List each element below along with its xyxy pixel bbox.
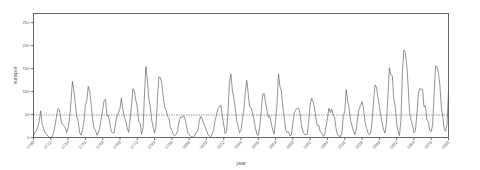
sunspot-line-chart: 050100150200250 170017121724173617481760… <box>0 0 480 170</box>
y-tick-label: 100 <box>23 89 31 94</box>
y-tick-label: 50 <box>25 112 30 117</box>
sunspot-chart-figure: 050100150200250 170017121724173617481760… <box>0 0 480 170</box>
y-tick-label: 250 <box>23 20 31 25</box>
y-tick-label: 150 <box>23 66 31 71</box>
y-axis-title: sunspot <box>12 66 18 84</box>
x-axis-title: year <box>236 160 246 166</box>
y-tick-label: 200 <box>23 43 31 48</box>
